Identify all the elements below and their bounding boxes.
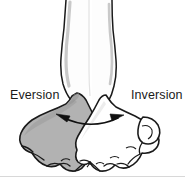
inversion-label: Inversion — [131, 88, 183, 102]
leg-seam — [89, 0, 90, 96]
left-lower-leg — [61, 0, 88, 100]
right-lower-leg — [92, 0, 116, 102]
eversion-label: Eversion — [10, 88, 59, 102]
foot-eversion-inversion-figure: Eversion Inversion — [0, 0, 185, 181]
anatomy-illustration: Eversion Inversion — [0, 0, 185, 181]
